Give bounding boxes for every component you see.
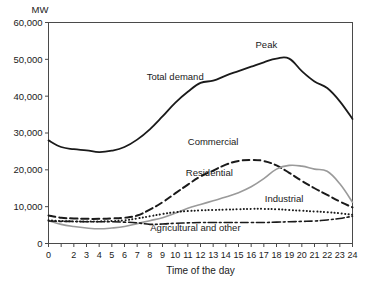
x-tick-label-6: 6: [122, 250, 127, 260]
x-tick-label-23: 23: [335, 250, 345, 260]
series-label-agricultural-and-other: Agricultural and other: [150, 222, 240, 233]
y-tick-label-0: 0: [37, 238, 42, 249]
chart-canvas: 010,00020,00030,00040,00050,00060,000 02…: [0, 0, 368, 285]
y-tick-label-6: 60,000: [13, 17, 42, 28]
y-tick-label-2: 20,000: [13, 164, 42, 175]
x-tick-label-3: 3: [84, 250, 89, 260]
x-tick-label-14: 14: [221, 250, 231, 260]
y-axis-tick-labels: 010,00020,00030,00040,00050,00060,000: [13, 17, 42, 249]
series-label-industrial: Industrial: [265, 193, 304, 204]
annotation-peak: Peak: [256, 39, 278, 50]
x-tick-label-20: 20: [297, 250, 307, 260]
x-tick-label-7: 7: [135, 250, 140, 260]
y-tick-label-3: 30,000: [13, 127, 42, 138]
x-axis-ticks: [49, 244, 353, 248]
x-tick-label-9: 9: [160, 250, 165, 260]
y-axis-unit-label: MW: [32, 4, 49, 15]
x-tick-label-10: 10: [170, 250, 180, 260]
x-tick-label-16: 16: [246, 250, 256, 260]
x-axis-tick-labels: 023456789101112131415161718192021222324: [46, 250, 358, 260]
x-tick-label-24: 24: [347, 250, 357, 260]
x-tick-label-22: 22: [322, 250, 332, 260]
x-tick-label-13: 13: [208, 250, 218, 260]
x-axis-title: Time of the day: [166, 265, 235, 276]
x-tick-label-19: 19: [284, 250, 294, 260]
series-label-residential: Residential: [186, 167, 233, 178]
x-tick-label-2: 2: [71, 250, 76, 260]
x-tick-label-11: 11: [183, 250, 192, 260]
series-label-commercial: Commercial: [188, 136, 239, 147]
x-tick-label-8: 8: [147, 250, 152, 260]
y-axis-ticks: [45, 23, 49, 244]
x-tick-label-17: 17: [259, 250, 269, 260]
y-tick-label-5: 50,000: [13, 54, 42, 65]
y-tick-label-4: 40,000: [13, 91, 42, 102]
y-tick-label-1: 10,000: [13, 201, 42, 212]
electricity-demand-chart: 010,00020,00030,00040,00050,00060,000 02…: [0, 0, 368, 285]
x-tick-label-4: 4: [97, 250, 102, 260]
x-tick-label-0: 0: [46, 250, 51, 260]
x-tick-label-21: 21: [309, 250, 319, 260]
x-tick-label-18: 18: [271, 250, 281, 260]
x-tick-label-15: 15: [233, 250, 243, 260]
chart-annotations: Peak: [256, 39, 278, 50]
x-tick-label-5: 5: [109, 250, 114, 260]
series-label-total-demand: Total demand: [147, 71, 204, 82]
x-tick-label-12: 12: [195, 250, 205, 260]
